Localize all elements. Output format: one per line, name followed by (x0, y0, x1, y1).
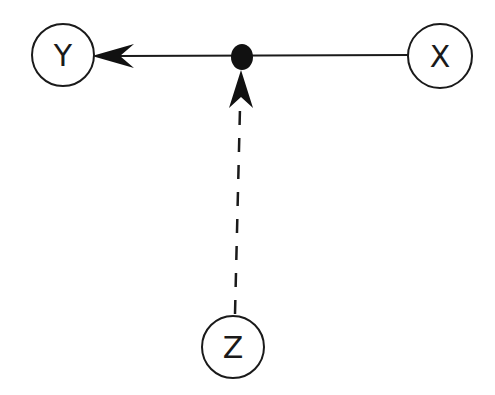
node-x-label: X (430, 39, 451, 74)
node-z: Z (202, 316, 264, 378)
edge-x-to-y (120, 55, 408, 56)
node-z-label: Z (223, 330, 244, 365)
node-x: X (408, 24, 472, 88)
node-y-label: Y (53, 38, 73, 73)
arrowhead-junction-icon (229, 70, 253, 108)
diagram-canvas: Y X Z (0, 0, 495, 395)
edge-z-to-junction (235, 108, 240, 314)
node-y: Y (32, 24, 94, 86)
junction-dot (231, 44, 253, 70)
